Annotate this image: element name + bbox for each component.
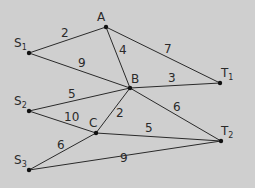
node-label-b: B [131, 73, 139, 85]
edge-c-t2 [96, 133, 221, 141]
weight-c-b: 2 [116, 107, 124, 119]
node-label-a: A [97, 11, 105, 23]
node-s3-dot [27, 168, 31, 172]
weight-c-t2: 5 [145, 122, 153, 134]
weight-s3-c: 6 [57, 139, 65, 151]
graph-diagram: A S1 B T1 S2 C T2 S3 2 9 4 7 3 5 10 2 6 … [0, 0, 255, 188]
node-label-s1: S1 [14, 37, 27, 52]
weight-s2-b: 5 [68, 88, 76, 100]
node-c-dot [94, 131, 98, 135]
node-label-s2: S2 [14, 95, 27, 110]
edge-b-t2 [130, 88, 221, 141]
node-label-t1: T1 [221, 67, 233, 82]
node-label-t2: T2 [221, 125, 233, 140]
weight-b-t1: 3 [168, 72, 176, 84]
weight-a-b: 4 [119, 44, 127, 56]
weight-s2-c: 10 [64, 111, 79, 123]
edge-s2-c [29, 111, 96, 133]
node-s2-dot [27, 109, 31, 113]
weight-s1-a: 2 [61, 27, 69, 39]
edge-a-b [106, 27, 130, 88]
node-s1-dot [27, 51, 31, 55]
weight-s1-b: 9 [78, 57, 86, 69]
weight-s3-t2: 9 [120, 152, 128, 164]
weight-b-t2: 6 [173, 101, 181, 113]
node-label-c: C [89, 117, 97, 129]
node-b-dot [128, 86, 132, 90]
node-a-dot [104, 25, 108, 29]
weight-a-t1: 7 [164, 43, 172, 55]
node-label-s3: S3 [14, 154, 27, 169]
